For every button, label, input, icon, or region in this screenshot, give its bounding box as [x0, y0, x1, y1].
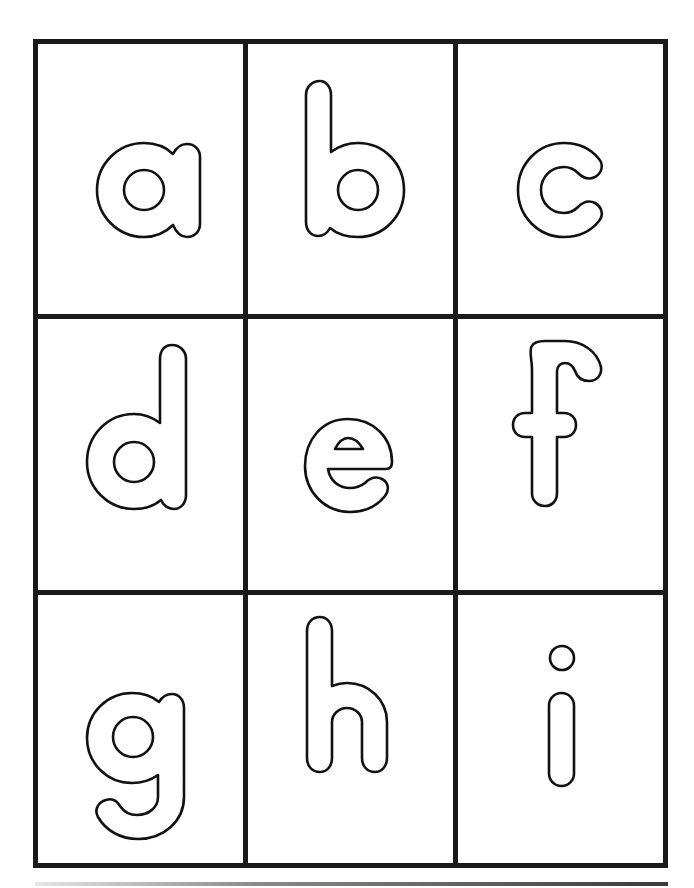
cell-letter-h: h [248, 595, 453, 863]
cell-letter-e: e [248, 319, 453, 590]
letter-f-glyph [458, 319, 663, 590]
letter-e-glyph [248, 319, 453, 590]
cell-letter-f: f [458, 319, 663, 590]
cell-letter-i: i [458, 595, 663, 863]
letter-g-glyph [38, 595, 243, 863]
letter-d-glyph [38, 319, 243, 590]
letter-b-glyph [248, 44, 453, 314]
cell-letter-g: g [38, 595, 243, 863]
letter-worksheet: a b c d e f [0, 0, 694, 888]
cell-letter-a: a [38, 44, 243, 314]
cell-letter-d: d [38, 319, 243, 590]
cell-letter-b: b [248, 44, 453, 314]
cell-letter-c: c [458, 44, 663, 314]
footer-rule [35, 882, 668, 886]
letter-i-glyph [458, 595, 663, 863]
letter-c-glyph [458, 44, 663, 314]
letter-h-glyph [248, 595, 453, 863]
letter-a-glyph [38, 44, 243, 314]
